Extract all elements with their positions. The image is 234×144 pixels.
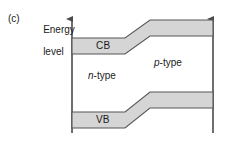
- y-axis-title-line1: Energy: [43, 24, 75, 35]
- n-type-region-label: n-type: [88, 70, 116, 81]
- p-type-region-label: p-type: [154, 57, 182, 68]
- valence-band-label: VB: [96, 114, 110, 125]
- conduction-band-ribbon: [72, 20, 213, 54]
- y-axis-title-line2: level: [43, 46, 64, 57]
- y-axis-title: Energy level: [32, 13, 75, 68]
- valence-band-ribbon: [72, 92, 213, 128]
- panel-letter: (c): [8, 13, 20, 24]
- energy-band-diagram-figure: (c) Energy level CB VB n-type p-type: [0, 0, 234, 144]
- conduction-band-label: CB: [96, 40, 110, 51]
- p-type-suffix: -type: [160, 57, 182, 68]
- n-type-suffix: -type: [94, 70, 116, 81]
